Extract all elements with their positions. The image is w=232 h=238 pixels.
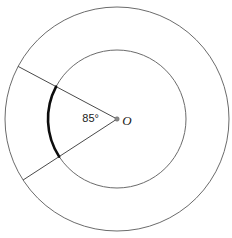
geometry-figure: 85° O bbox=[0, 0, 232, 238]
center-point-dot bbox=[115, 117, 119, 121]
center-point-label: O bbox=[122, 113, 132, 128]
upper-radius-line bbox=[18, 66, 117, 119]
lower-radius-line bbox=[23, 119, 117, 180]
angle-label: 85° bbox=[82, 112, 99, 124]
diagram-canvas: 85° O bbox=[0, 0, 232, 238]
highlighted-arc bbox=[48, 87, 59, 157]
